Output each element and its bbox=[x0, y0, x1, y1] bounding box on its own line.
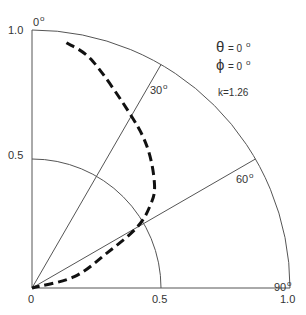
annotation-phi: ϕ = 0 o bbox=[216, 56, 251, 73]
grid-ray bbox=[32, 159, 255, 288]
origin-tick: 0 bbox=[28, 293, 34, 305]
svg-text:o: o bbox=[246, 40, 251, 49]
svg-text:ϕ: ϕ bbox=[216, 56, 224, 73]
svg-text:o: o bbox=[40, 14, 45, 23]
grid-arc bbox=[32, 30, 290, 288]
angle-label-90: 90 o bbox=[274, 279, 292, 293]
svg-text:60: 60 bbox=[236, 173, 248, 185]
angle-label-30: 30 o bbox=[150, 82, 168, 96]
svg-text:o: o bbox=[249, 171, 254, 180]
svg-text:o: o bbox=[163, 82, 168, 91]
svg-text:90: 90 bbox=[274, 281, 286, 293]
dashed-pattern-curve bbox=[32, 43, 155, 288]
svg-text:o: o bbox=[287, 279, 292, 288]
x-tick-0.5: 0.5 bbox=[152, 293, 167, 305]
grid-ray bbox=[32, 65, 161, 288]
angle-label-60: 60 o bbox=[236, 171, 254, 185]
svg-text:= 0: = 0 bbox=[228, 61, 243, 72]
y-tick-0.5: 0.5 bbox=[8, 149, 23, 161]
svg-text:= 0: = 0 bbox=[228, 43, 243, 54]
annotation-k: k=1.26 bbox=[218, 87, 249, 98]
svg-text:0: 0 bbox=[33, 16, 39, 28]
angle-label-0: 0 o bbox=[33, 14, 45, 28]
polar-grid bbox=[32, 30, 290, 288]
annotation-theta: θ = 0 o bbox=[216, 38, 251, 55]
svg-text:θ: θ bbox=[216, 38, 224, 55]
svg-text:o: o bbox=[246, 58, 251, 67]
x-tick-1.0: 1.0 bbox=[280, 293, 295, 305]
y-tick-1.0: 1.0 bbox=[8, 24, 23, 36]
svg-text:30: 30 bbox=[150, 84, 162, 96]
polar-plot: 1.0 0.5 0 0.5 1.0 0 o 30 o 60 o 90 o θ =… bbox=[0, 0, 306, 315]
